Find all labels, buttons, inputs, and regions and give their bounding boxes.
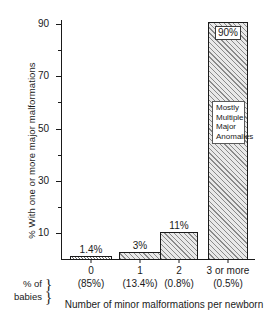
y-tick-minor <box>58 207 62 208</box>
x-category-3: 3 or more (0.5%) <box>207 265 250 291</box>
secondary-axis-label-line1: % of <box>23 277 42 290</box>
category-label: 2 <box>164 265 193 277</box>
category-secondary-value: (85%) <box>78 277 105 291</box>
y-tick-label: 70 <box>38 71 49 81</box>
y-tick-major: 30 <box>56 181 61 182</box>
x-category-1: 1 (13.4%) <box>122 265 157 291</box>
x-category-0: 0 (85%) <box>78 265 105 291</box>
bar-value-label: 3% <box>133 240 147 251</box>
plot-area: 10 30 50 70 90 1.4% 3% 11% <box>61 20 255 260</box>
category-label: 1 <box>122 265 157 277</box>
annotation-line: Mostly <box>216 103 242 113</box>
secondary-axis-label: % of } babies } <box>14 277 52 303</box>
annotation-line: Major <box>216 122 242 132</box>
annotation-line: Multiple <box>216 113 242 123</box>
y-tick-minor <box>58 102 62 103</box>
y-tick-label: 50 <box>38 124 49 134</box>
y-tick-minor <box>58 50 62 51</box>
bar-chart: % With one or more major malformations 1… <box>0 0 280 317</box>
category-label: 3 or more <box>207 265 250 277</box>
y-tick-label: 90 <box>38 19 49 29</box>
x-tick <box>91 259 92 263</box>
y-tick-label: 10 <box>38 228 49 238</box>
bar-category-0: 1.4% <box>70 256 112 261</box>
bar-value-label: 1.4% <box>80 244 103 255</box>
y-tick-major: 50 <box>56 129 61 130</box>
x-category-2: 2 (0.8%) <box>164 265 193 291</box>
y-tick-major: 10 <box>56 233 61 234</box>
bar-annotation-box: Mostly Multiple Major Anomalies <box>212 101 245 144</box>
y-tick-label: 30 <box>38 176 49 186</box>
y-tick-major: 90 <box>56 24 61 25</box>
x-tick <box>228 259 229 263</box>
y-tick-minor <box>58 155 62 156</box>
bar-category-1: 3% <box>119 252 161 260</box>
bar-value-label: 11% <box>169 220 188 231</box>
x-axis-title: Number of minor malformations per newbor… <box>48 299 280 310</box>
y-axis-line <box>61 20 62 260</box>
bar-value-label: 90% <box>215 26 241 40</box>
y-tick-major: 70 <box>56 76 61 77</box>
x-tick <box>179 259 180 263</box>
bar-category-2: 11% <box>160 232 198 260</box>
annotation-line: Anomalies <box>216 132 242 142</box>
category-secondary-value: (0.5%) <box>207 277 250 291</box>
x-tick <box>140 259 141 263</box>
brace-icon: } <box>45 278 52 290</box>
secondary-axis-label-line2: babies <box>14 290 42 303</box>
y-axis-title: % With one or more major malformations <box>26 36 37 266</box>
bar-category-3: 90% Mostly Multiple Major Anomalies <box>208 22 248 260</box>
category-label: 0 <box>78 265 105 277</box>
category-secondary-value: (13.4%) <box>122 277 157 291</box>
category-secondary-value: (0.8%) <box>164 277 193 291</box>
